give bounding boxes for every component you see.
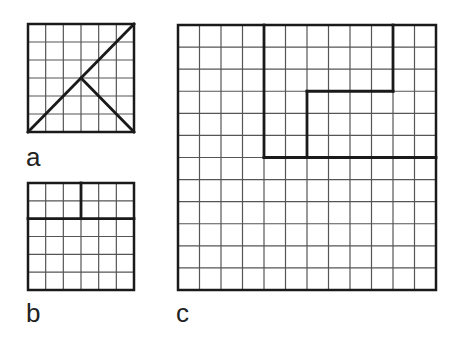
panel-b-label: b [26,300,40,326]
grid-figure: a b c [0,0,459,346]
panel-c-label: c [176,300,189,326]
figure-canvas [0,0,459,346]
thick-division-line [81,78,134,132]
panel-a-label: a [26,144,40,170]
panel-b-grid [28,183,134,290]
panel-c-grid [178,25,436,290]
panel-a-grid [28,24,134,132]
